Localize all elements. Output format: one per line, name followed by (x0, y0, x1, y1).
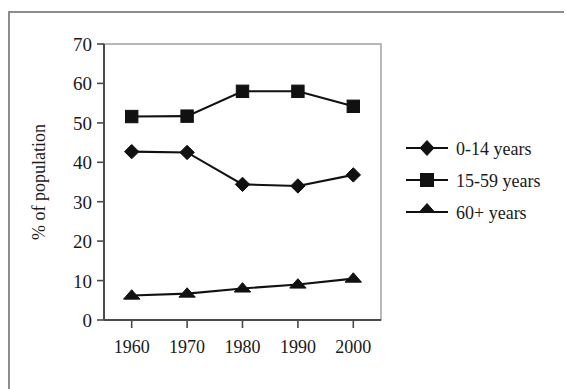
data-point-marker (346, 168, 360, 182)
data-point-marker (235, 177, 249, 191)
data-point-marker (345, 273, 361, 282)
data-point-marker (236, 85, 248, 97)
data-point-marker (181, 110, 193, 122)
data-point-marker (292, 85, 304, 97)
square-marker-icon (421, 174, 434, 187)
y-tick-label: 30 (73, 192, 92, 213)
series-0-14-years (125, 144, 361, 193)
legend-label-60-plus: 60+ years (456, 203, 527, 223)
y-tick-label: 0 (83, 310, 93, 331)
x-tick-label: 1990 (280, 337, 316, 357)
legend-entry-60-plus-years[interactable]: 60+ years (406, 203, 527, 223)
series-15-59-years (126, 85, 360, 123)
y-axis-tick-labels: 70 60 50 40 30 20 10 0 (73, 34, 92, 331)
triangle-marker-icon (419, 204, 435, 213)
data-point-marker (126, 110, 138, 122)
y-tick-label: 70 (73, 34, 92, 55)
legend-label-15-59: 15-59 years (456, 171, 540, 191)
x-tick-label: 2000 (335, 337, 371, 357)
data-point-marker (125, 144, 139, 158)
x-axis-tick-labels: 1960 1970 1980 1990 2000 (114, 337, 372, 357)
diamond-marker-icon (420, 141, 434, 156)
x-tick-label: 1980 (225, 337, 261, 357)
x-axis-ticks (132, 320, 354, 328)
chart-legend: 0-14 years 15-59 years 60+ years (406, 139, 540, 223)
y-tick-label: 10 (73, 271, 92, 292)
y-axis-ticks (97, 44, 104, 320)
data-point-marker (180, 145, 194, 159)
series-60-plus-years (124, 273, 362, 299)
y-axis-title: % of population (29, 124, 49, 240)
y-tick-label: 50 (73, 113, 92, 134)
data-point-marker (291, 179, 305, 193)
y-tick-label: 40 (73, 152, 92, 173)
legend-entry-0-14-years[interactable]: 0-14 years (406, 139, 531, 159)
y-tick-label: 20 (73, 231, 92, 252)
legend-entry-15-59-years[interactable]: 15-59 years (406, 171, 540, 191)
x-tick-label: 1970 (169, 337, 205, 357)
legend-label-0-14: 0-14 years (456, 139, 531, 159)
x-tick-label: 1960 (114, 337, 150, 357)
y-tick-label: 60 (73, 73, 92, 94)
data-point-marker (347, 100, 359, 112)
